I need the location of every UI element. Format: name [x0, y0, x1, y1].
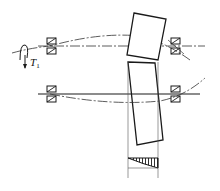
pinion [127, 13, 166, 60]
torque-label: T1 [30, 56, 40, 70]
input-shaft-deflection-curve [12, 35, 190, 60]
gear-shaft-deflection-diagram: T1 [0, 0, 220, 191]
torque-arrow-icon [20, 45, 28, 69]
load-distribution-diagram [128, 158, 158, 168]
output-shaft-deflection-curve [50, 78, 205, 102]
